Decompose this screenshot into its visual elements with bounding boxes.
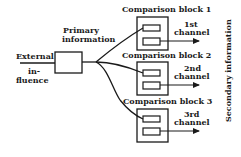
channel-2-label-2: channel — [174, 71, 210, 81]
channel-3-label-2: channel — [174, 117, 210, 127]
primary-box — [55, 52, 82, 73]
block-3-inner-bottom — [143, 128, 160, 135]
comparison-block-3: Comparison block 3 3rd channel — [123, 96, 213, 142]
block-3-title: Comparison block 3 — [123, 96, 213, 106]
block-3-inner-top — [143, 116, 160, 122]
block-2-inner-top — [143, 70, 160, 76]
block-1-inner-bottom — [143, 38, 160, 45]
block-1-inner-top — [143, 25, 160, 31]
branch-to-block3 — [96, 62, 120, 100]
block-2-outer — [137, 62, 168, 95]
block-2-inner-bottom — [143, 82, 160, 89]
channel-1-label-2: channel — [174, 27, 210, 37]
external-label: External — [16, 51, 54, 61]
comparison-block-2: Comparison block 2 2nd channel — [122, 50, 211, 95]
block-1-title: Comparison block 1 — [122, 4, 211, 14]
diagram-canvas: External in- fluence Primary information… — [0, 0, 241, 157]
primary-label-2: information — [62, 34, 116, 44]
block-2-title: Comparison block 2 — [122, 50, 211, 60]
comparison-block-1: Comparison block 1 1st channel — [122, 4, 211, 50]
influence-label-2: fluence — [16, 75, 49, 85]
block-3-outer — [137, 109, 168, 142]
secondary-information-label: Secondary information — [223, 19, 233, 122]
